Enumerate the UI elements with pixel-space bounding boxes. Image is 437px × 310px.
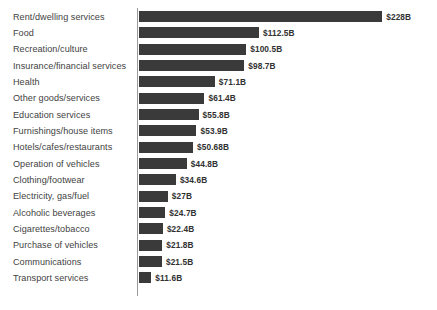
bar-row: Clothing/footwear$34.6B <box>0 172 437 188</box>
bar-fill <box>139 109 199 120</box>
bar-fill <box>139 11 382 22</box>
bar-category-label: Alcoholic beverages <box>13 205 133 221</box>
bar-value-label: $34.6B <box>180 172 207 188</box>
bar-category-label: Cigarettes/tobacco <box>13 221 133 237</box>
bar-track <box>139 27 259 38</box>
bar-value-label: $100.5B <box>250 41 282 57</box>
bar-fill <box>139 272 151 283</box>
bar-category-label: Furnishings/house items <box>13 123 133 139</box>
bar-track <box>139 191 168 202</box>
bar-value-label: $98.7B <box>248 58 275 74</box>
bar-value-label: $11.6B <box>155 270 182 286</box>
bar-category-label: Other goods/services <box>13 90 133 106</box>
bar-fill <box>139 125 196 136</box>
bar-value-label: $50.68B <box>197 139 229 155</box>
bar-track <box>139 272 151 283</box>
bar-category-label: Health <box>13 74 133 90</box>
bar-fill <box>139 240 162 251</box>
bar-track <box>139 142 193 153</box>
bar-track <box>139 44 246 55</box>
bar-row: Electricity, gas/fuel$27B <box>0 188 437 204</box>
bar-track <box>139 125 196 136</box>
bar-track <box>139 60 244 71</box>
bar-fill <box>139 256 162 267</box>
bar-value-label: $24.7B <box>169 205 196 221</box>
bar-fill <box>139 223 163 234</box>
bar-fill <box>139 93 204 104</box>
bar-row: Rent/dwelling services$228B <box>0 9 437 25</box>
bar-track <box>139 240 162 251</box>
bar-category-label: Purchase of vehicles <box>13 237 133 253</box>
bar-row: Hotels/cafes/restaurants$50.68B <box>0 139 437 155</box>
bar-track <box>139 158 187 169</box>
bar-row: Furnishings/house items$53.9B <box>0 123 437 139</box>
bar-value-label: $112.5B <box>263 25 295 41</box>
bar-value-label: $44.8B <box>191 156 218 172</box>
bar-category-label: Electricity, gas/fuel <box>13 188 133 204</box>
bar-category-label: Transport services <box>13 270 133 286</box>
bar-category-label: Insurance/financial services <box>13 58 133 74</box>
bar-row: Purchase of vehicles$21.8B <box>0 237 437 253</box>
bar-fill <box>139 27 259 38</box>
bar-row: Health$71.1B <box>0 74 437 90</box>
bar-value-label: $21.8B <box>166 237 193 253</box>
bar-track <box>139 76 215 87</box>
bar-category-label: Clothing/footwear <box>13 172 133 188</box>
bar-category-label: Operation of vehicles <box>13 156 133 172</box>
bar-row: Communications$21.5B <box>0 254 437 270</box>
bar-track <box>139 207 165 218</box>
bar-track <box>139 223 163 234</box>
bar-value-label: $55.8B <box>203 107 230 123</box>
bar-track <box>139 256 162 267</box>
bar-value-label: $27B <box>172 188 192 204</box>
bar-row: Transport services$11.6B <box>0 270 437 286</box>
bar-fill <box>139 191 168 202</box>
bar-category-label: Food <box>13 25 133 41</box>
bar-category-label: Hotels/cafes/restaurants <box>13 139 133 155</box>
bar-chart: Rent/dwelling services$228BFood$112.5BRe… <box>0 0 437 310</box>
bar-row: Other goods/services$61.4B <box>0 90 437 106</box>
bar-row: Food$112.5B <box>0 25 437 41</box>
bar-category-label: Rent/dwelling services <box>13 9 133 25</box>
bar-row: Cigarettes/tobacco$22.4B <box>0 221 437 237</box>
bar-fill <box>139 76 215 87</box>
bar-row: Education services$55.8B <box>0 107 437 123</box>
bar-track <box>139 11 382 22</box>
bar-value-label: $228B <box>386 9 411 25</box>
bar-value-label: $22.4B <box>167 221 194 237</box>
bar-row: Recreation/culture$100.5B <box>0 41 437 57</box>
bar-value-label: $53.9B <box>200 123 227 139</box>
bar-category-label: Communications <box>13 254 133 270</box>
bar-row: Alcoholic beverages$24.7B <box>0 205 437 221</box>
bar-value-label: $71.1B <box>219 74 246 90</box>
bar-fill <box>139 158 187 169</box>
bar-value-label: $61.4B <box>208 90 235 106</box>
bar-row: Insurance/financial services$98.7B <box>0 58 437 74</box>
bar-category-label: Education services <box>13 107 133 123</box>
bar-fill <box>139 142 193 153</box>
bar-fill <box>139 60 244 71</box>
bar-rows: Rent/dwelling services$228BFood$112.5BRe… <box>0 0 437 310</box>
bar-track <box>139 109 199 120</box>
bar-track <box>139 93 204 104</box>
bar-row: Operation of vehicles$44.8B <box>0 156 437 172</box>
bar-fill <box>139 44 246 55</box>
bar-fill <box>139 207 165 218</box>
bar-category-label: Recreation/culture <box>13 41 133 57</box>
bar-value-label: $21.5B <box>166 254 193 270</box>
bar-track <box>139 174 176 185</box>
bar-fill <box>139 174 176 185</box>
